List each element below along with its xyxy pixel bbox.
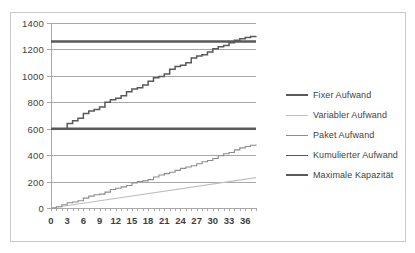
x-tick-29 (207, 208, 208, 211)
series-lines (51, 23, 256, 208)
x-tick-10 (105, 208, 106, 211)
x-tick-8 (94, 208, 95, 211)
x-tick-12 (116, 208, 117, 211)
x-tick-34 (234, 208, 235, 211)
y-axis-tick-label: 1200 (22, 44, 44, 55)
legend-item-label: Paket Aufwand (313, 130, 374, 140)
plot-area: 0200400600800100012001400 03691215182124… (51, 23, 256, 208)
x-tick-2 (62, 208, 63, 211)
x-tick-7 (89, 208, 90, 211)
x-tick-25 (186, 208, 187, 211)
legend-line-icon (286, 155, 308, 156)
x-tick-31 (218, 208, 219, 211)
x-tick-4 (73, 208, 74, 211)
series-line-kumulierter-aufwand (51, 36, 256, 128)
x-tick-27 (197, 208, 198, 211)
y-axis-tick-label: 400 (28, 150, 44, 161)
x-tick-13 (121, 208, 122, 211)
x-tick-33 (229, 208, 230, 211)
y-axis-tick-label: 800 (28, 97, 44, 108)
x-tick-18 (148, 208, 149, 211)
legend-line-icon (286, 174, 308, 176)
legend-item-label: Fixer Aufwand (313, 90, 371, 100)
x-axis-tick-label: 18 (143, 215, 154, 226)
legend-item-maximale-kapazität[interactable]: Maximale Kapazität (286, 165, 406, 185)
chart-legend: Fixer AufwandVariabler AufwandPaket Aufw… (286, 85, 406, 185)
x-axis-tick-label: 12 (110, 215, 121, 226)
x-tick-36 (245, 208, 246, 211)
x-tick-28 (202, 208, 203, 211)
x-axis-tick-label: 33 (224, 215, 235, 226)
legend-item-kumulierter-aufwand[interactable]: Kumulierter Aufwand (286, 145, 406, 165)
x-axis-tick-label: 21 (159, 215, 170, 226)
legend-line-icon (286, 115, 308, 116)
legend-line-icon (286, 94, 308, 96)
series-line-variabler-aufwand (51, 178, 256, 208)
x-tick-17 (143, 208, 144, 211)
x-tick-16 (137, 208, 138, 211)
legend-item-label: Variabler Aufwand (313, 110, 387, 120)
y-axis-tick-label: 0 (39, 203, 44, 214)
x-tick-23 (175, 208, 176, 211)
y-axis-tick-label: 1000 (22, 70, 44, 81)
x-tick-20 (159, 208, 160, 211)
x-axis-tick-label: 6 (81, 215, 86, 226)
x-tick-32 (224, 208, 225, 211)
x-tick-30 (213, 208, 214, 211)
legend-line-icon (286, 135, 308, 136)
series-line-paket-aufwand (51, 145, 256, 208)
x-axis-tick-label: 30 (208, 215, 219, 226)
x-tick-9 (100, 208, 101, 211)
x-tick-26 (191, 208, 192, 211)
x-tick-37 (251, 208, 252, 211)
x-tick-3 (67, 208, 68, 211)
y-axis-tick-label: 600 (28, 123, 44, 134)
legend-item-fixer-aufwand[interactable]: Fixer Aufwand (286, 85, 406, 105)
x-axis-tick-label: 9 (97, 215, 102, 226)
x-tick-15 (132, 208, 133, 211)
legend-item-variabler-aufwand[interactable]: Variabler Aufwand (286, 105, 406, 125)
x-axis-tick-label: 24 (175, 215, 186, 226)
x-axis-tick-label: 36 (240, 215, 251, 226)
x-axis-tick-label: 3 (65, 215, 70, 226)
x-tick-24 (180, 208, 181, 211)
x-tick-6 (83, 208, 84, 211)
chart-figure: 0200400600800100012001400 03691215182124… (10, 12, 406, 242)
x-tick-19 (154, 208, 155, 211)
x-tick-5 (78, 208, 79, 211)
x-tick-21 (164, 208, 165, 211)
x-tick-11 (110, 208, 111, 211)
legend-item-paket-aufwand[interactable]: Paket Aufwand (286, 125, 406, 145)
x-axis-tick-label: 27 (191, 215, 202, 226)
x-tick-22 (170, 208, 171, 211)
x-tick-14 (127, 208, 128, 211)
y-axis-tick-label: 200 (28, 176, 44, 187)
y-axis-tick-label: 1400 (22, 18, 44, 29)
x-tick-38 (256, 208, 257, 211)
legend-item-label: Maximale Kapazität (313, 170, 393, 180)
x-axis-tick-label: 0 (48, 215, 53, 226)
legend-item-label: Kumulierter Aufwand (313, 150, 398, 160)
x-axis-tick-label: 15 (127, 215, 138, 226)
x-tick-35 (240, 208, 241, 211)
